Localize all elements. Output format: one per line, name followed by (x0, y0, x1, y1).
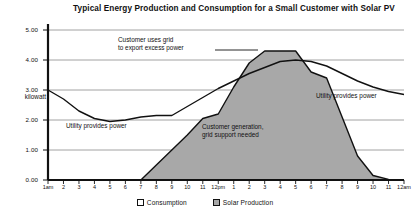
annotation-utility-provides-power-left: Utility provides power (66, 122, 127, 130)
annotation-line: Utility provides power (316, 92, 377, 100)
series-solar-production-area (48, 51, 404, 180)
annotation-line: Customer uses grid (118, 36, 184, 44)
annotation-customer-exports: Customer uses grid to export excess powe… (118, 36, 184, 52)
legend-swatch-solar-production-icon (213, 199, 220, 206)
annotation-line: grid support needed (202, 131, 263, 139)
legend-item-consumption: Consumption (137, 199, 187, 206)
annotation-customer-generation: Customer generation, grid support needed (202, 123, 263, 139)
annotation-line: Customer generation, (202, 123, 263, 131)
legend-item-solar-production: Solar Production (213, 199, 273, 206)
annotation-line: Utility provides power (66, 122, 127, 130)
annotation-line: to export excess power (118, 44, 184, 52)
annotation-utility-provides-power-right: Utility provides power (316, 92, 377, 100)
legend-swatch-consumption-icon (137, 199, 144, 206)
legend-label: Solar Production (223, 199, 273, 206)
chart-legend: Consumption Solar Production (0, 199, 410, 206)
legend-label: Consumption (147, 199, 187, 206)
